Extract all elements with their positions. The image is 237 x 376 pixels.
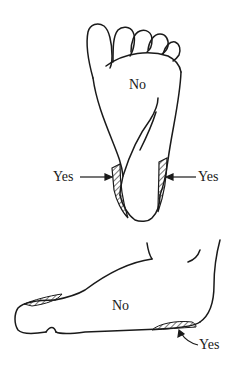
plantar-foot-outline [87, 24, 181, 221]
lateral-heel-hatch [152, 321, 196, 330]
lateral-yes-label: Yes [199, 338, 219, 352]
right-heel-hatch [158, 158, 167, 212]
plantar-right-yes-label: Yes [198, 170, 218, 184]
plantar-left-yes-label: Yes [53, 170, 73, 184]
foot-illustration [0, 0, 237, 376]
plantar-no-label: No [129, 78, 146, 92]
plantar-arrows [80, 174, 196, 180]
lateral-no-label: No [112, 299, 129, 313]
lateral-foot-outline [15, 240, 220, 334]
left-heel-hatch [112, 164, 128, 218]
foot-diagram: No Yes Yes No Yes [0, 0, 237, 376]
lateral-arrow [178, 330, 198, 345]
